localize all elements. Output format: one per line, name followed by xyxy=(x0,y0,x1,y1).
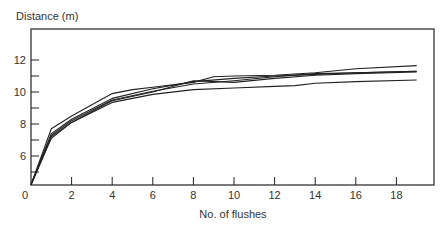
data-series xyxy=(31,66,417,185)
y-tick-label: 6 xyxy=(20,150,26,162)
plot-frame xyxy=(31,29,434,185)
y-tick-label: 10 xyxy=(14,86,26,98)
x-tick-label: 14 xyxy=(309,189,321,201)
line-chart: Distance (m) 681012 024681012141618 No. … xyxy=(0,0,447,228)
x-tick-label: 6 xyxy=(150,189,156,201)
x-tick-label: 4 xyxy=(109,189,115,201)
y-axis-title: Distance (m) xyxy=(16,10,78,22)
x-tick-label: 8 xyxy=(190,189,196,201)
x-tick-label: 10 xyxy=(228,189,240,201)
x-tick-label: 2 xyxy=(69,189,75,201)
x-tick-label: 12 xyxy=(268,189,280,201)
x-tick-label: 16 xyxy=(350,189,362,201)
x-tick-label: 18 xyxy=(390,189,402,201)
y-tick-label: 12 xyxy=(14,54,26,66)
series-line-1 xyxy=(31,66,417,185)
x-axis: 024681012141618 xyxy=(22,177,403,201)
y-axis: 681012 xyxy=(14,54,39,172)
x-axis-title: No. of flushes xyxy=(199,208,267,220)
x-tick-label: 0 xyxy=(22,189,28,201)
y-tick-label: 8 xyxy=(20,118,26,130)
series-line-5 xyxy=(31,80,417,185)
